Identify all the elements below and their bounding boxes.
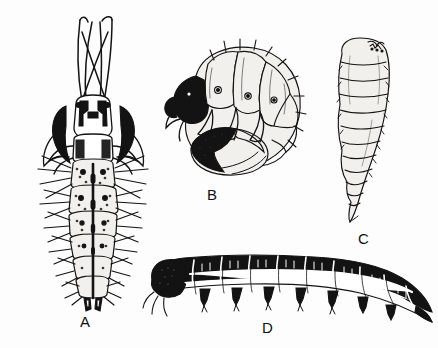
- figure-label-b: B: [207, 187, 218, 202]
- figure-c-vermiform-larva: [320, 32, 410, 227]
- figure-d-eruciform-larva: [138, 244, 438, 329]
- figure-b-scarabaeiform-grub: [162, 28, 312, 183]
- figure-label-d: D: [262, 320, 273, 335]
- illustration-plate: A: [0, 0, 438, 348]
- figure-label-a: A: [80, 314, 91, 329]
